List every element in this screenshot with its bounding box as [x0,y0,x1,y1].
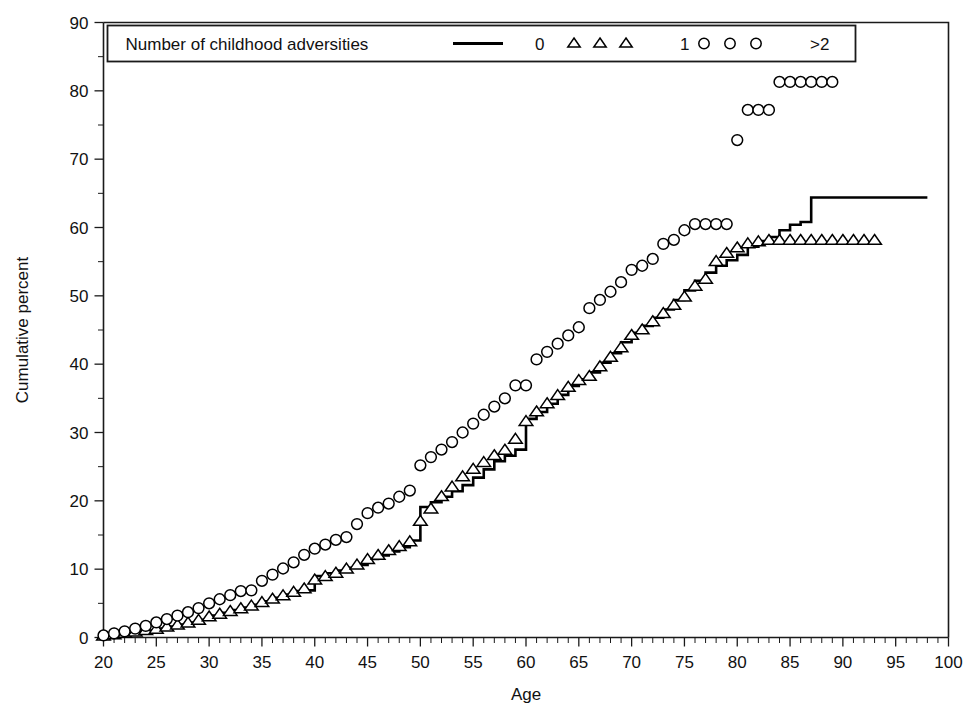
y-tick-label: 40 [70,355,89,374]
marker-circle [478,409,489,420]
marker-circle [531,354,542,365]
x-tick-label: 25 [147,653,166,672]
marker-circle [183,607,194,618]
marker-circle [658,239,669,250]
marker-circle [119,626,130,637]
marker-circle [785,77,796,88]
marker-circle [172,610,183,621]
x-tick-label: 80 [728,653,747,672]
y-tick-label: 30 [70,424,89,443]
y-axis-tick-labels: 0102030405060708090 [70,14,89,648]
marker-circle [542,346,553,357]
marker-circle [426,452,437,463]
marker-circle [668,234,679,245]
marker-circle [605,286,616,297]
marker-circle [309,543,320,554]
marker-circle [521,380,532,391]
marker-circle [193,603,204,614]
marker-circle [320,539,331,550]
marker-circle [552,338,563,349]
marker-circle [415,460,426,471]
marker-circle [267,569,278,580]
marker-circle [616,277,627,288]
x-tick-label: 100 [934,653,962,672]
marker-circle [404,485,415,496]
marker-circle [394,491,405,502]
legend-label->2: >2 [810,35,829,54]
x-tick-label: 65 [569,653,588,672]
y-tick-label: 0 [79,629,88,648]
x-tick-label: 85 [781,653,800,672]
marker-triangle [868,234,882,244]
marker-circle [468,418,479,429]
legend-label-0: 0 [535,35,544,54]
series-line-0 [104,197,928,636]
x-axis-tick-labels: 20253035404550556065707580859095100 [94,653,963,672]
y-tick-label: 80 [70,82,89,101]
marker-circle [816,77,827,88]
x-tick-label: 35 [252,653,271,672]
y-tick-label: 20 [70,492,89,511]
marker-circle [764,105,775,116]
marker-circle [109,628,120,639]
marker-circle [98,630,109,641]
marker-circle [510,380,521,391]
y-axis-title: Cumulative percent [13,256,32,403]
marker-circle [563,330,574,341]
marker-circle [721,219,732,230]
marker-circle [362,508,373,519]
marker-circle [499,393,510,404]
marker-circle [647,254,658,265]
marker-circle [436,444,447,455]
marker-circle [626,264,637,275]
x-tick-label: 75 [675,653,694,672]
marker-triangle [678,291,692,301]
marker-circle [447,437,458,448]
marker-circle [341,532,352,543]
x-tick-label: 95 [886,653,905,672]
marker-circle [383,498,394,509]
marker-circle [742,105,753,116]
marker-circle [257,575,268,586]
y-tick-label: 10 [70,560,89,579]
marker-circle [130,623,141,634]
x-tick-label: 20 [94,653,113,672]
legend-label-1: 1 [680,35,689,54]
legend-title: Number of childhood adversities [126,35,369,54]
marker-circle [299,549,310,560]
chart-legend: Number of childhood adversities 01>2 [108,26,856,62]
y-tick-label: 50 [70,287,89,306]
marker-circle [711,219,722,230]
marker-circle [214,594,225,605]
x-tick-label: 70 [622,653,641,672]
cumulative-percent-chart: 20253035404550556065707580859095100 0102… [0,0,977,728]
marker-triangle [498,444,512,454]
marker-circle [584,303,595,314]
marker-triangle [509,433,523,443]
x-tick-label: 60 [517,653,536,672]
marker-circle [732,135,743,146]
marker-circle [330,534,341,545]
legend-circle-swatch [725,38,735,48]
marker-circle [595,295,606,306]
y-tick-label: 90 [70,14,89,33]
x-tick-label: 45 [358,653,377,672]
x-tick-label: 30 [200,653,219,672]
axis-frame [104,23,949,638]
marker-circle [151,617,162,628]
marker-circle [204,598,215,609]
marker-circle [235,586,246,597]
marker-circle [140,620,151,631]
marker-triangle [699,273,713,283]
x-axis-ticks [104,638,949,647]
marker-circle [373,502,384,513]
marker-circle [489,401,500,412]
marker-circle [753,105,764,116]
y-axis-ticks [95,23,104,638]
marker-circle [700,219,711,230]
marker-triangle [445,481,459,491]
legend-circle-swatch [699,38,709,48]
plot-frame [104,23,949,638]
x-tick-label: 55 [464,653,483,672]
series-layer [97,77,928,641]
